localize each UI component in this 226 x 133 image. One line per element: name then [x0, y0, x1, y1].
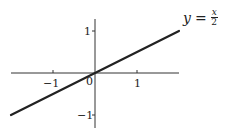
equation-equals: = — [195, 10, 207, 26]
fraction-denominator: 2 — [211, 18, 217, 27]
origin-label: 0 — [86, 76, 93, 87]
equation-fraction: x 2 — [211, 8, 218, 27]
y-tick-label-neg1: −1 — [77, 110, 93, 121]
x-tick-label-neg1: −1 — [43, 78, 59, 89]
equation-lhs: y — [183, 10, 191, 26]
x-tick-label-1: 1 — [134, 78, 141, 89]
y-tick-label-1: 1 — [84, 26, 91, 37]
equation-annotation: y = x 2 — [183, 8, 218, 27]
